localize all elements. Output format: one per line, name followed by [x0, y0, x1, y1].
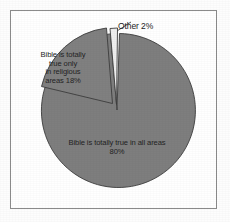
pie-chart-canvas	[0, 0, 230, 222]
pie-label-bible-true-religious-only: Bible is totally true only in religious …	[26, 51, 100, 85]
pie-chart-figure: Other 2% Bible is totally true only in r…	[0, 0, 230, 222]
pie-label-bible-true-all-areas: Bible is totally true in all areas 80%	[45, 139, 189, 156]
pie-label-other: Other 2%	[118, 22, 190, 32]
